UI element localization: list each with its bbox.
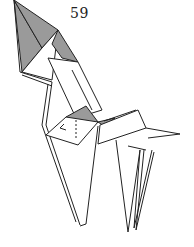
neck-shaded <box>52 30 78 62</box>
neck-block <box>48 58 102 118</box>
tail <box>146 128 180 138</box>
origami-figure <box>0 0 194 247</box>
body-white <box>46 117 98 145</box>
